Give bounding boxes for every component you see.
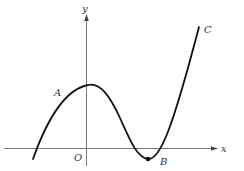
point-b-label: B xyxy=(159,156,167,167)
function-graph: y x O A B C xyxy=(0,0,244,171)
point-b-dot xyxy=(146,157,151,162)
x-axis-label: x xyxy=(221,143,227,154)
point-a-label: A xyxy=(53,87,61,98)
y-axis-label: y xyxy=(81,3,88,14)
origin-label: O xyxy=(74,152,82,163)
point-c-label: C xyxy=(204,24,212,35)
